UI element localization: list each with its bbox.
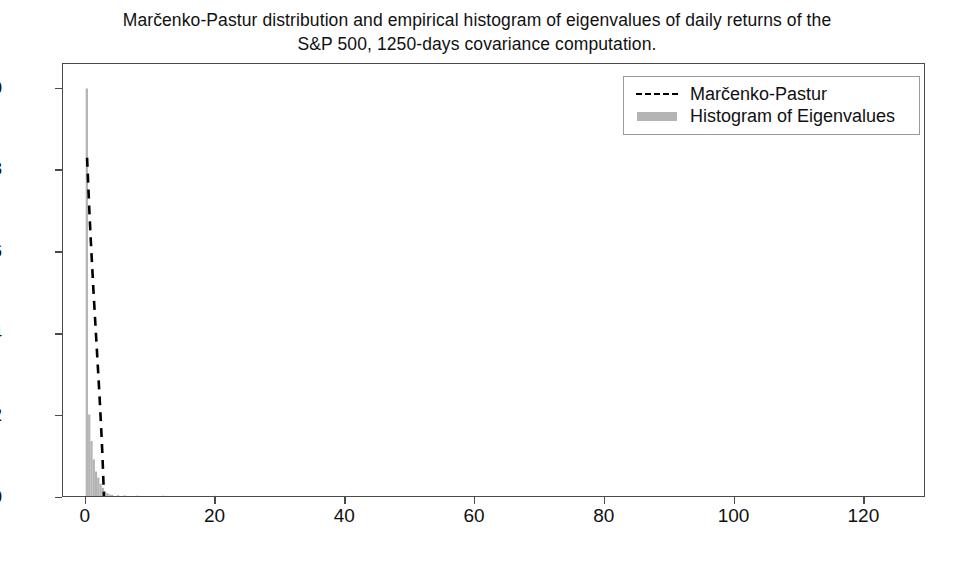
y-tick-mark	[55, 333, 62, 334]
x-tick-label: 60	[463, 505, 484, 527]
y-tick-label: 0.2	[0, 404, 2, 426]
histogram-bar	[97, 478, 99, 496]
histogram-bar	[123, 495, 125, 496]
histogram-bars	[86, 88, 864, 496]
y-tick-mark	[55, 497, 62, 498]
x-tick-mark	[863, 497, 864, 504]
legend-item-histogram: Histogram of Eigenvalues	[634, 105, 909, 127]
histogram-bar	[86, 88, 88, 496]
histogram-bar	[108, 494, 110, 496]
histogram-bar	[93, 459, 95, 496]
x-tick-mark	[214, 497, 215, 504]
x-tick-mark	[604, 497, 605, 504]
legend-label-marcenko-pastur: Marčenko-Pastur	[690, 84, 827, 104]
y-tick-label: 1.0	[0, 77, 2, 99]
histogram-bar	[99, 484, 101, 496]
y-tick-mark	[55, 251, 62, 252]
histogram-bar	[90, 441, 92, 496]
y-tick-mark	[55, 169, 62, 170]
x-tick-label: 0	[79, 505, 90, 527]
figure-root: Marčenko-Pastur distribution and empiric…	[0, 0, 954, 566]
x-tick-label: 20	[204, 505, 225, 527]
x-tick-label: 100	[718, 505, 750, 527]
histogram-bar	[95, 472, 97, 496]
histogram-bar	[88, 414, 90, 496]
histogram-bar	[117, 495, 119, 496]
y-tick-mark	[55, 88, 62, 89]
x-tick-label: 40	[334, 505, 355, 527]
histogram-bar	[106, 493, 108, 496]
x-tick-label: 80	[593, 505, 614, 527]
y-tick-label: 0.4	[0, 322, 2, 344]
filled-patch-icon	[634, 109, 680, 123]
legend-item-marcenko-pastur: Marčenko-Pastur	[634, 83, 909, 105]
x-tick-mark	[734, 497, 735, 504]
y-tick-label: 0.6	[0, 240, 2, 262]
y-tick-mark	[55, 415, 62, 416]
y-tick-label: 0.0	[0, 486, 2, 508]
dashed-line-icon	[634, 87, 680, 101]
chart-legend: Marčenko-Pastur Histogram of Eigenvalues	[623, 76, 920, 135]
x-tick-mark	[85, 497, 86, 504]
y-tick-label: 0.8	[0, 158, 2, 180]
legend-label-histogram: Histogram of Eigenvalues	[690, 106, 895, 126]
x-tick-mark	[474, 497, 475, 504]
histogram-bar	[111, 495, 113, 496]
x-tick-mark	[344, 497, 345, 504]
x-tick-label: 120	[847, 505, 879, 527]
chart-title: Marčenko-Pastur distribution and empiric…	[40, 8, 914, 56]
